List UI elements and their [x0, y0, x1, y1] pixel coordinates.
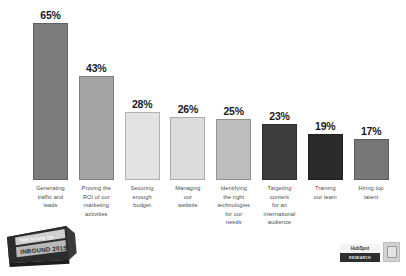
bar — [216, 119, 251, 180]
category-label-line: leads — [28, 201, 73, 210]
bar-value-label: 23% — [269, 111, 289, 122]
category-label-line: website — [165, 201, 210, 210]
category-label-line: for our — [211, 210, 256, 219]
category-label-line: enough — [120, 193, 165, 202]
category-label-line: talent — [349, 193, 394, 202]
category-label-line: needs — [211, 218, 256, 227]
category-label: Generatingtraffic andleads — [28, 184, 73, 210]
category-label-line: for an — [257, 201, 302, 210]
category-label: Identifyingthe righttechnologiesfor ourn… — [211, 184, 256, 227]
bar-value-label: 19% — [315, 121, 335, 132]
hubspot-research-bar: RESEARCH — [340, 253, 380, 262]
category-label: Targetingcontentfor aninternationalaudie… — [257, 184, 302, 227]
bar-chart: 65%43%28%26%25%23%19%17% Generatingtraff… — [0, 0, 406, 276]
bar — [33, 23, 68, 180]
bar-column: 23% — [262, 0, 297, 182]
category-label-line: Generating — [28, 184, 73, 193]
bar-value-label: 28% — [132, 99, 152, 110]
category-label-line: our — [165, 193, 210, 202]
secondary-logo-glyph — [387, 246, 397, 258]
hubspot-logo-block: HubSpot RESEARCH — [340, 244, 380, 262]
bar — [354, 139, 389, 180]
bar-column: 26% — [170, 0, 205, 182]
hubspot-research-label: RESEARCH — [349, 256, 371, 260]
category-label-line: marketing — [74, 201, 119, 210]
category-label-line: technologies — [211, 201, 256, 210]
bar — [79, 76, 114, 180]
bar-value-label: 25% — [223, 106, 243, 117]
bar — [262, 124, 297, 180]
category-label-line: international — [257, 210, 302, 219]
category-label: Trainingour team — [303, 184, 348, 201]
hubspot-wordmark: HubSpot — [351, 246, 369, 252]
category-label-line: traffic and — [28, 193, 73, 202]
category-label-line: audience — [257, 218, 302, 227]
plot-area: 65%43%28%26%25%23%19%17% — [0, 0, 406, 182]
category-label-line: Training — [303, 184, 348, 193]
category-label: Proving theROI of ourmarketingactivities — [74, 184, 119, 218]
category-label: Managingourwebsite — [165, 184, 210, 210]
bar-value-label: 17% — [361, 126, 381, 137]
hubspot-logo-lockup: HubSpot RESEARCH — [340, 242, 400, 262]
bar — [308, 134, 343, 180]
category-label-line: Proving the — [74, 184, 119, 193]
bar-value-label: 43% — [86, 63, 106, 74]
badge-graphic: THE STATE OF INBOUND 2015 — [4, 223, 81, 271]
category-label-line: Managing — [165, 184, 210, 193]
category-label-line: ROI of our — [74, 193, 119, 202]
category-label: Hiring toptalent — [349, 184, 394, 201]
bar-value-label: 26% — [178, 104, 198, 115]
bar-column: 43% — [79, 0, 114, 182]
category-label: Securingenoughbudget — [120, 184, 165, 210]
bar-column: 65% — [33, 0, 68, 182]
bar — [170, 117, 205, 180]
bar-column: 17% — [354, 0, 389, 182]
bar-column: 19% — [308, 0, 343, 182]
bar-value-label: 65% — [40, 10, 60, 21]
category-label-line: Securing — [120, 184, 165, 193]
category-label-line: budget — [120, 201, 165, 210]
category-label-line: Hiring top — [349, 184, 394, 193]
category-label-line: the right — [211, 193, 256, 202]
secondary-logo-icon — [383, 242, 400, 262]
bar-column: 28% — [125, 0, 160, 182]
bar-column: 25% — [216, 0, 251, 182]
category-label-line: our team — [303, 193, 348, 202]
category-label-line: Identifying — [211, 184, 256, 193]
bar — [125, 112, 160, 180]
category-label-line: activities — [74, 210, 119, 219]
category-label-line: Targeting — [257, 184, 302, 193]
category-label-line: content — [257, 193, 302, 202]
state-of-inbound-badge: THE STATE OF INBOUND 2015 — [4, 223, 81, 271]
